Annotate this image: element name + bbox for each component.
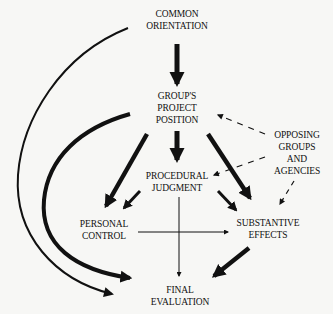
node-substantive-effects: SUBSTANTIVE EFFECTS xyxy=(236,217,299,241)
node-common-orientation: COMMON ORIENTATION xyxy=(146,8,207,32)
arrow-procedural-to-substantive xyxy=(218,191,236,210)
arrow-procedural-to-personal-control xyxy=(124,191,140,208)
arrow-opposing-to-procedural xyxy=(214,157,265,175)
arrow-position-to-personal-control xyxy=(106,134,147,206)
arrow-orientation-to-final xyxy=(18,28,128,294)
node-final-evaluation: FINAL EVALUATION xyxy=(151,284,209,308)
node-groups-project-position: GROUP'S PROJECT POSITION xyxy=(156,90,198,126)
arrow-position-to-final xyxy=(44,114,130,278)
arrow-opposing-to-position xyxy=(218,115,265,134)
node-personal-control: PERSONAL CONTROL xyxy=(80,218,128,242)
node-opposing-groups-and-agencies: OPPOSING GROUPS AND AGENCIES xyxy=(274,129,320,177)
arrow-opposing-to-substantive xyxy=(280,181,294,204)
node-procedural-judgment: PROCEDURAL JUDGMENT xyxy=(146,170,208,194)
arrow-substantive-to-final xyxy=(214,248,249,276)
arrow-position-to-substantive xyxy=(208,134,250,198)
path-diagram: COMMON ORIENTATION GROUP'S PROJECT POSIT… xyxy=(0,0,333,314)
